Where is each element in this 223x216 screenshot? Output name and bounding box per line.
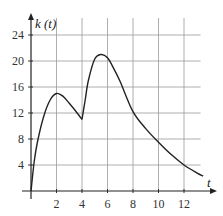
y-tick-label: 24 [12,28,24,42]
y-tick-label: 20 [12,54,24,68]
line-chart: 246810124812162024 k (t) t [0,0,223,216]
x-tick-label: 6 [105,197,111,211]
y-tick-label: 4 [18,158,24,172]
y-axis-arrow-icon [28,13,34,20]
y-tick-label: 12 [12,106,24,120]
tick-labels: 246810124812162024 [12,28,190,211]
x-axis-label: t [207,175,211,190]
grid-lines [31,18,201,191]
x-axis-arrow-icon [210,188,217,194]
axes [22,13,217,199]
x-tick-label: 12 [178,197,190,211]
x-tick-label: 10 [153,197,165,211]
y-tick-label: 16 [12,80,24,94]
y-tick-label: 8 [18,132,24,146]
x-tick-label: 4 [79,197,85,211]
x-tick-label: 2 [54,197,60,211]
y-axis-label: k (t) [35,16,56,31]
x-tick-label: 8 [130,197,136,211]
